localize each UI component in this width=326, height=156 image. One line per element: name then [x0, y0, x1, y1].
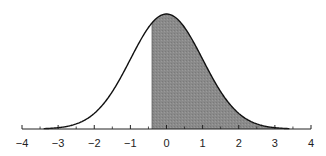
- shaded-area-region: [152, 14, 289, 129]
- tick-label: 0: [163, 137, 169, 149]
- x-axis-tick-labels: −4−3−2−101234: [16, 137, 314, 149]
- tick-label: 1: [200, 137, 206, 149]
- tick-label: −1: [124, 137, 137, 149]
- tick-label: 2: [236, 137, 242, 149]
- tick-label: 3: [272, 137, 278, 149]
- shaded-area: [152, 14, 289, 129]
- tick-label: 4: [308, 137, 314, 149]
- tick-label: −2: [88, 137, 101, 149]
- tick-label: −3: [52, 137, 65, 149]
- tick-label: −4: [16, 137, 29, 149]
- normal-distribution-chart: −4−3−2−101234: [0, 0, 326, 156]
